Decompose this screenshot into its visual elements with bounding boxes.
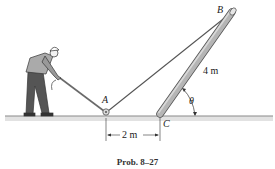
label-pole-length: 4 m [203,65,219,76]
worker-figure [24,47,61,116]
label-point-b: B [217,4,223,15]
label-distance-ac: 2 m [122,129,138,140]
ground [5,116,273,121]
pole [159,7,238,114]
label-angle-theta: θ [189,95,194,106]
rope [60,16,227,111]
label-point-c: C [163,118,170,129]
label-point-a: A [101,94,109,105]
figure-caption: Prob. 8–27 [117,157,159,167]
problem-figure: A B C θ 4 m 2 m Prob. 8–27 [0,0,275,169]
